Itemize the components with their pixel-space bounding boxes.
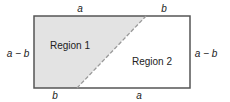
region-1-label: Region 1 [50, 40, 90, 51]
bottom-right-edge-label: a [136, 90, 142, 101]
bottom-left-edge-label: b [52, 90, 58, 101]
region-2-label: Region 2 [132, 56, 172, 67]
rectangle-partition-diagram: Region 1 Region 2 a b b a a − b a − b [0, 0, 230, 102]
top-right-edge-label: b [161, 3, 167, 14]
region-1-shape [34, 16, 146, 88]
top-left-edge-label: a [77, 3, 83, 14]
right-edge-label: a − b [195, 48, 218, 59]
left-edge-label: a − b [7, 48, 30, 59]
